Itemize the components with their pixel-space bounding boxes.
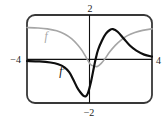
figure: 2 −2 −4 4 f f′ xyxy=(0,0,167,123)
x-min-tick-label: −4 xyxy=(10,54,21,65)
x-max-tick-label: 4 xyxy=(156,55,161,66)
y-min-tick-label: −2 xyxy=(84,107,95,118)
curve-f-prime-label: f′ xyxy=(59,65,65,78)
y-max-tick-label: 2 xyxy=(88,3,93,14)
plot-svg: 2 −2 −4 4 f f′ xyxy=(0,0,167,123)
curve-f-label: f xyxy=(44,30,49,43)
